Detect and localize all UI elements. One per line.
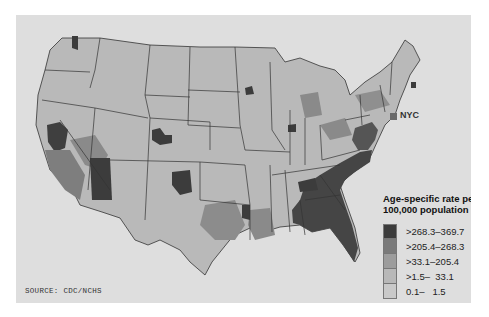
legend-row: 0.1– 1.5 <box>383 284 471 299</box>
legend-row: >205.4–268.3 <box>383 239 471 254</box>
legend-label: >1.5– 33.1 <box>406 271 454 282</box>
nyc-marker <box>390 113 397 120</box>
nyc-label: NYC <box>400 110 419 120</box>
legend-label: >205.4–268.3 <box>406 241 464 252</box>
legend-label: >268.3–369.7 <box>406 226 464 237</box>
legend-row: >33.1–205.4 <box>383 254 471 269</box>
region-arizona-high <box>90 158 112 200</box>
legend-title-line2: 100,000 population <box>383 204 471 215</box>
legend-rows: >268.3–369.7 >205.4–268.3 >33.1–205.4 >1… <box>383 224 471 299</box>
legend-swatch <box>383 224 397 239</box>
source-credit: SOURCE: CDC/NCHS <box>25 287 102 295</box>
region-washington-high <box>72 36 78 50</box>
legend: Age-specific rate per 100,000 population… <box>383 193 471 299</box>
map-frame: NYC Age-specific rate per 100,000 popula… <box>16 15 471 303</box>
region-arkansas-high <box>242 205 250 220</box>
legend-swatch <box>383 284 397 299</box>
legend-label: >33.1–205.4 <box>406 256 459 267</box>
legend-title-line1: Age-specific rate per <box>383 193 471 204</box>
region-maine-high <box>411 82 416 88</box>
legend-swatch <box>383 239 397 254</box>
legend-row: >268.3–369.7 <box>383 224 471 239</box>
legend-swatch <box>383 254 397 269</box>
region-illinois-high <box>288 124 296 132</box>
legend-swatch <box>383 269 397 284</box>
legend-label: 0.1– 1.5 <box>406 286 446 297</box>
legend-row: >1.5– 33.1 <box>383 269 471 284</box>
